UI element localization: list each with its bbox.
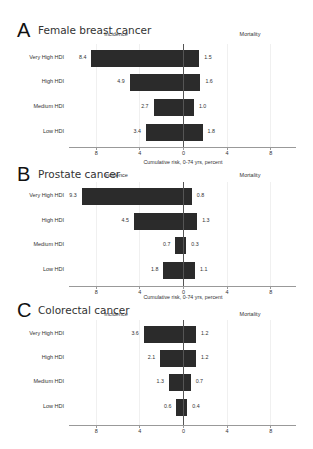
mortality-bar	[183, 262, 195, 279]
row-label: High HDI	[42, 355, 64, 361]
incidence-value: 1.8	[151, 267, 158, 272]
incidence-bar	[160, 350, 183, 367]
x-tick-label: 4	[138, 429, 141, 435]
mortality-value: 1.2	[201, 355, 208, 360]
row-label: Medium HDI	[33, 379, 64, 385]
mortality-bar	[183, 188, 192, 205]
mortality-value: 1.6	[205, 79, 212, 84]
mortality-value: 1.3	[202, 218, 209, 223]
incidence-value: 0.7	[163, 242, 170, 247]
mortality-bar	[183, 74, 200, 91]
x-tick-label: 8	[269, 151, 272, 157]
mortality-value: 0.3	[191, 242, 198, 247]
x-axis-label: Cumulative risk, 0-74 yrs, percent	[144, 295, 223, 300]
incidence-value: 0.6	[164, 404, 171, 409]
mortality-bar	[183, 124, 203, 141]
incidence-value: 1.3	[156, 379, 163, 384]
incidence-value: 4.5	[122, 218, 129, 223]
mortality-bar	[183, 213, 197, 230]
mortality-header: Mortality	[240, 312, 261, 318]
incidence-bar	[91, 50, 183, 67]
panel-letter: A	[17, 20, 30, 40]
mortality-header: Mortality	[240, 173, 261, 179]
x-tick-label: 0	[182, 429, 185, 435]
zero-line	[183, 44, 184, 151]
incidence-value: 3.4	[134, 129, 141, 134]
mortality-value: 1.0	[199, 104, 206, 109]
incidence-bar	[175, 237, 183, 254]
x-tick-label: 8	[269, 290, 272, 296]
mortality-value: 1.2	[201, 331, 208, 336]
incidence-bar	[144, 326, 183, 343]
mortality-bar	[183, 374, 191, 391]
mortality-bar	[183, 50, 199, 67]
mortality-bar	[183, 99, 194, 116]
mortality-value: 0.8	[197, 193, 204, 198]
gridline	[96, 320, 97, 426]
row-label: Low HDI	[43, 404, 64, 410]
mortality-bar	[183, 326, 196, 343]
gridline	[270, 320, 271, 426]
row-label: High HDI	[42, 79, 64, 85]
x-tick-label: 8	[269, 429, 272, 435]
mortality-header: Mortality	[240, 32, 261, 38]
gridline	[227, 320, 228, 426]
incidence-header: Incidence	[104, 312, 128, 318]
mortality-bar	[183, 350, 196, 367]
incidence-bar	[82, 188, 183, 205]
mortality-value: 0.4	[192, 404, 199, 409]
incidence-value: 4.9	[117, 79, 124, 84]
incidence-value: 3.6	[131, 331, 138, 336]
incidence-bar	[146, 124, 183, 141]
row-label: Medium HDI	[33, 242, 64, 248]
x-tick-label: 4	[226, 429, 229, 435]
incidence-header: Incidence	[104, 173, 128, 179]
x-tick-label: 4	[138, 151, 141, 157]
incidence-value: 2.7	[141, 104, 148, 109]
row-label: Very High HDI	[29, 193, 64, 199]
panel-title: Female breast cancer	[38, 25, 151, 36]
x-tick-label: 4	[226, 151, 229, 157]
row-label: Very High HDI	[29, 55, 64, 61]
gridline	[139, 320, 140, 426]
incidence-bar	[176, 399, 183, 416]
row-label: Low HDI	[43, 129, 64, 135]
incidence-bar	[154, 99, 183, 116]
mortality-value: 0.7	[196, 379, 203, 384]
panel-letter: B	[17, 164, 30, 184]
x-tick-label: 8	[95, 290, 98, 296]
x-axis-label: Cumulative risk, 0-74 yrs, percent	[144, 160, 223, 165]
incidence-value: 2.1	[148, 355, 155, 360]
gridline	[270, 44, 271, 148]
gridline	[270, 182, 271, 287]
x-tick-label: 4	[138, 290, 141, 296]
gridline	[227, 44, 228, 148]
panel-letter: C	[17, 300, 31, 320]
mortality-value: 1.1	[200, 267, 207, 272]
incidence-bar	[163, 262, 183, 279]
x-tick-label: 8	[95, 151, 98, 157]
incidence-value: 9.3	[69, 193, 76, 198]
incidence-value: 8.4	[79, 55, 86, 60]
row-label: Very High HDI	[29, 331, 64, 337]
x-tick-label: 0	[182, 151, 185, 157]
incidence-header: Incidence	[104, 32, 128, 38]
incidence-bar	[134, 213, 183, 230]
x-tick-label: 8	[95, 429, 98, 435]
zero-line	[183, 182, 184, 290]
mortality-value: 1.8	[208, 129, 215, 134]
zero-line	[183, 320, 184, 429]
incidence-bar	[130, 74, 183, 91]
row-label: Low HDI	[43, 267, 64, 273]
gridline	[227, 182, 228, 287]
row-label: High HDI	[42, 218, 64, 224]
mortality-value: 1.5	[204, 55, 211, 60]
row-label: Medium HDI	[33, 104, 64, 110]
x-tick-label: 4	[226, 290, 229, 296]
incidence-bar	[169, 374, 183, 391]
